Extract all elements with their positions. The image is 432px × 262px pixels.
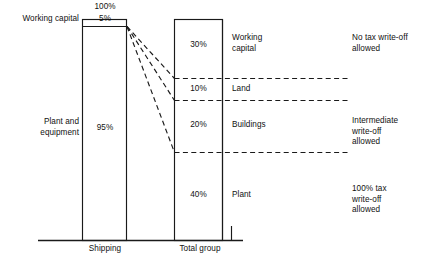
annotation-full-tax-write-off: 100% tax write-off allowed <box>352 184 432 216</box>
right-bar-segment-label-land: Land <box>232 84 322 95</box>
right-bar-segment-percent-plant: 40% <box>175 190 222 201</box>
connector-to-working-capital-land <box>127 27 175 79</box>
right-bar-segment-percent-working-capital: 30% <box>175 40 222 51</box>
axis-label-shipping: Shipping <box>60 244 150 255</box>
axis-label-total-group: Total group <box>155 244 245 255</box>
annotation-intermediate-write-off: Intermediate write-off allowed <box>352 116 432 148</box>
connector-to-buildings-plant <box>127 27 175 153</box>
left-bar-segment-label-working-capital: Working capital <box>0 14 79 25</box>
right-bar-segment-percent-land: 10% <box>175 84 222 95</box>
right-bar-segment-label-plant: Plant <box>232 190 322 201</box>
right-bar-segment-label-buildings: Buildings <box>232 120 322 131</box>
left-bar-total-label: 100% <box>82 2 128 13</box>
left-bar-segment-percent-working-capital: 5% <box>82 14 128 25</box>
right-bar-segment-label-working-capital: Working capital <box>232 33 322 54</box>
left-bar-segment-label-plant-equipment: Plant and equipment <box>8 117 79 138</box>
left-bar-segment-percent-plant-equipment: 95% <box>82 123 128 134</box>
diagram-canvas: 100% Working capital 5% Plant and equipm… <box>0 0 432 262</box>
right-bar-segment-percent-buildings: 20% <box>175 120 222 131</box>
annotation-no-tax-write-off: No tax write-off allowed <box>352 33 432 54</box>
